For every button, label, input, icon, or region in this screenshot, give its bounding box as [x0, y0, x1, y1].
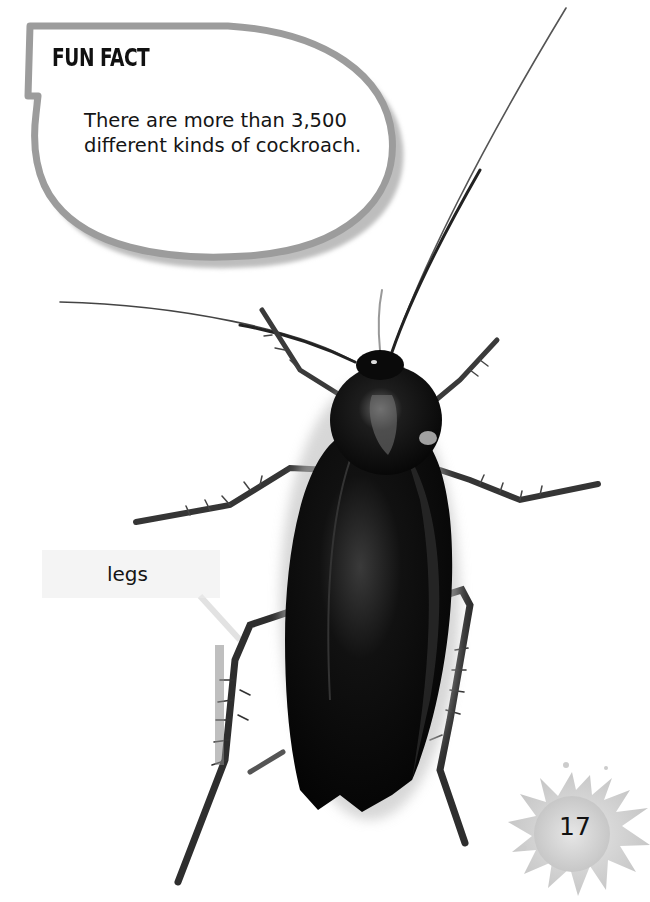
head	[356, 350, 404, 380]
legs-label: legs	[107, 562, 148, 586]
page-number: 17	[559, 812, 591, 841]
book-page: FUN FACT There are more than 3,500 diffe…	[0, 0, 650, 902]
fun-fact-title: FUN FACT	[52, 44, 149, 72]
label-pointer	[200, 596, 240, 640]
fun-fact-text: There are more than 3,500 different kind…	[84, 108, 374, 158]
